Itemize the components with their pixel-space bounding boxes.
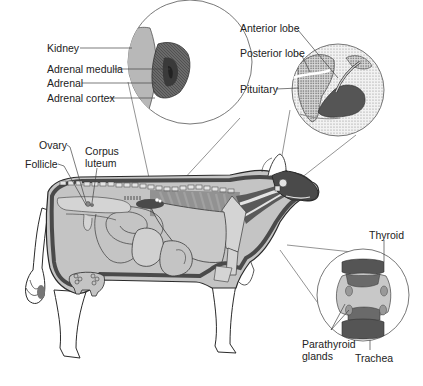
cow-illustration [0,0,423,386]
label-parathyroid-line1: Parathyroid [302,338,356,350]
label-anterior-lobe: Anterior lobe [240,22,300,34]
label-parathyroid-line2: glands [302,350,333,362]
label-adrenal: Adrenal [47,77,83,89]
cow-body [25,154,318,358]
label-kidney: Kidney [47,42,79,54]
label-trachea: Trachea [355,352,393,364]
label-adrenal-medulla: Adrenal medulla [47,63,123,75]
label-follicle: Follicle [25,158,58,170]
label-adrenal-cortex: Adrenal cortex [47,92,115,104]
adrenal-inset [120,0,252,124]
endocrine-diagram: Kidney Adrenal medulla Adrenal Adrenal c… [0,0,423,386]
pituitary-inset [292,44,384,136]
label-corpus-luteum-line2: luteum [85,157,117,169]
thyroid-inset [317,249,409,341]
label-posterior-lobe: Posterior lobe [240,47,305,59]
label-corpus-luteum-line1: Corpus [85,145,119,157]
label-thyroid: Thyroid [369,229,404,241]
label-pituitary: Pituitary [240,83,278,95]
label-ovary: Ovary [39,139,67,151]
